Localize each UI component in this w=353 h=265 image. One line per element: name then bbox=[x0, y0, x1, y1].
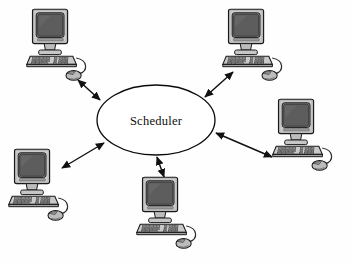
edge-right bbox=[216, 133, 272, 157]
node-right[interactable] bbox=[273, 99, 332, 170]
edge-bottom-left bbox=[62, 143, 104, 168]
node-top-left[interactable] bbox=[27, 9, 86, 80]
edge-top-right bbox=[205, 72, 233, 97]
node-bottom-left[interactable] bbox=[9, 149, 68, 220]
node-bottom-center[interactable] bbox=[137, 177, 196, 248]
hub-label: Scheduler bbox=[130, 114, 183, 128]
hub-node[interactable]: Scheduler bbox=[97, 85, 215, 155]
node-top-right[interactable] bbox=[223, 9, 282, 80]
diagram-canvas: Scheduler bbox=[0, 0, 353, 265]
edge-top-left bbox=[78, 80, 100, 100]
network-topology-diagram: Scheduler bbox=[0, 0, 353, 265]
edge-bottom-center bbox=[157, 157, 164, 177]
